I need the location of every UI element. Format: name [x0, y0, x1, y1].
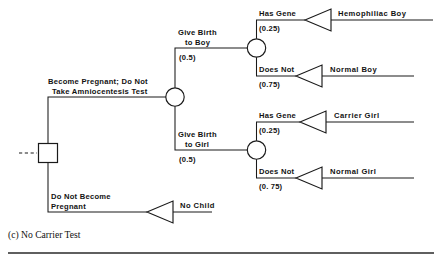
outcome-label-no-child: No Child: [180, 201, 215, 211]
outcome-label-hemophiliac-boy: Hemophiliac Boy: [338, 9, 406, 19]
edge-label-boy-does-not: Does Not: [259, 65, 294, 75]
decision-node-square[interactable]: [39, 144, 58, 163]
chance-node-girl-gene[interactable]: [247, 141, 265, 159]
chance-node-boy-gene[interactable]: [247, 39, 265, 57]
edge-label-give-birth-to-boy: Give Birthto Boy: [178, 28, 217, 48]
terminal-node-no-child[interactable]: [147, 201, 173, 223]
edge-prob-boy-does-not: (0.75): [259, 80, 280, 90]
edge-label-give-birth-to-boy-line2: to Boy: [178, 38, 210, 48]
edge-label-do-not-become-pregnant: Do Not BecomePregnant: [51, 192, 111, 212]
terminal-node-hemophiliac-boy[interactable]: [305, 9, 331, 31]
terminal-node-normal-boy[interactable]: [296, 65, 322, 87]
edge-label-girl-does-not: Does Not: [259, 167, 294, 177]
edge-label-give-birth-to-girl: Give Birthto Girl: [178, 130, 217, 150]
outcome-label-carrier-girl: Carrier Girl: [334, 111, 380, 121]
edge-label-give-birth-to-girl-line2: to Girl: [178, 140, 209, 150]
terminal-node-carrier-girl[interactable]: [300, 111, 326, 133]
edge-label-boy-has-gene: Has Gene: [259, 9, 296, 19]
edge-label-become-pregnant: Become Pregnant; Do NotTake Amniocentesi…: [48, 77, 148, 97]
chance-node-sex[interactable]: [166, 88, 184, 106]
edge-label-do-not-become-pregnant-line2: Pregnant: [51, 202, 86, 211]
edge-prob-girl-does-not: (0. 75): [259, 182, 282, 192]
decision-tree-figure: Become Pregnant; Do NotTake Amniocentesi…: [0, 0, 442, 263]
edge-prob-give-birth-to-girl: (0.5): [179, 155, 196, 165]
edge-label-become-pregnant-line1: Become Pregnant; Do Not: [48, 77, 148, 86]
edge-become-pregnant: [48, 97, 166, 143]
edge-label-do-not-become-pregnant-line1: Do Not Become: [51, 192, 111, 201]
edge-label-give-birth-to-boy-line1: Give Birth: [178, 28, 217, 37]
edge-label-girl-has-gene: Has Gene: [259, 111, 296, 121]
outcome-label-normal-boy: Normal Boy: [330, 65, 377, 75]
decision-tree-canvas: [0, 0, 442, 263]
edge-prob-girl-has-gene: (0.25): [259, 126, 280, 136]
edge-prob-give-birth-to-boy: (0.5): [179, 53, 196, 63]
edge-label-give-birth-to-girl-line1: Give Birth: [178, 130, 217, 139]
terminal-node-normal-girl[interactable]: [296, 167, 322, 189]
outcome-label-normal-girl: Normal Girl: [330, 167, 376, 177]
edge-label-become-pregnant-line2: Take Amniocentesis Test: [48, 87, 148, 97]
figure-caption: (c) No Carrier Test: [8, 229, 80, 240]
edge-prob-boy-has-gene: (0.25): [259, 24, 280, 34]
